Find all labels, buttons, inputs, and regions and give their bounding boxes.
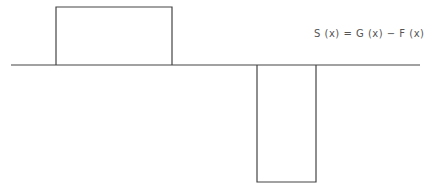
positive-pulse xyxy=(56,7,172,65)
equation-label: S (x) = G (x) − F (x) xyxy=(314,28,425,39)
negative-pulse xyxy=(257,65,316,182)
